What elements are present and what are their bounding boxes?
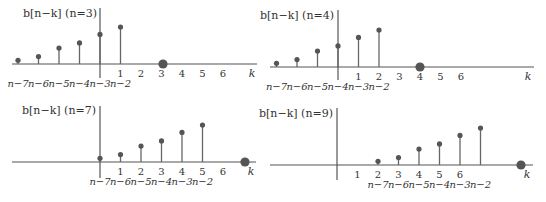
convolution-flip-shift-figure: b[n−k] (n=3)123456n−7n−6n−5n−4n−3n−2k b[…	[0, 0, 546, 202]
stem-dot	[376, 27, 381, 32]
k-tick-label: 2	[138, 68, 144, 79]
n-offset-label: n−2	[110, 78, 131, 89]
k-tick-label: 5	[437, 71, 443, 82]
stem-dot	[437, 141, 442, 146]
k-axis-label: k	[249, 67, 256, 80]
n-offset-label: n−6	[28, 78, 50, 89]
panel-title: b[n−k] (n=7)	[22, 104, 96, 117]
k-axis-label: k	[248, 165, 255, 178]
n-offset-label: n−3	[449, 179, 470, 190]
n-offset-label: n−4	[69, 78, 90, 89]
stem-dot	[36, 54, 41, 59]
stem-dot	[138, 143, 143, 148]
k-tick-label: 1	[354, 169, 360, 180]
k-tick-label: 4	[179, 68, 185, 79]
n-offset-label: n−6	[286, 81, 308, 92]
panel-n7: b[n−k] (n=7)123456n−7n−6n−5n−4n−3n−2k	[12, 104, 256, 187]
stem-dot	[77, 40, 82, 45]
n-offset-label: n−5	[130, 176, 151, 187]
panel-n9: b[n−k] (n=9)123456n−7n−6n−5n−4n−3n−2k	[259, 107, 533, 190]
stem-dot	[179, 130, 184, 135]
n-offset-label: n−4	[327, 81, 348, 92]
panel-title: b[n−k] (n=3)	[23, 7, 97, 20]
stem-dot	[294, 57, 299, 62]
panel-title: b[n−k] (n=4)	[260, 9, 334, 22]
n-offset-label: n−4	[151, 176, 172, 187]
stem-dot	[56, 45, 61, 50]
n-offset-label: n−7	[89, 176, 111, 187]
stem-dot	[478, 125, 483, 130]
k-tick-label: 4	[417, 71, 423, 82]
stem-dot	[416, 146, 421, 151]
stem-dot	[274, 61, 279, 66]
stem-dot	[396, 155, 401, 160]
stem-dot	[200, 122, 205, 127]
n-offset-label: n−3	[89, 78, 110, 89]
n-offset-label: n−6	[110, 176, 132, 187]
n-offset-label: n−7	[266, 81, 288, 92]
n-position-marker	[415, 62, 424, 71]
n-offset-label: n−5	[408, 179, 429, 190]
n-offset-label: n−7	[367, 179, 389, 190]
stem-dot	[457, 133, 462, 138]
k-tick-label: 3	[396, 71, 402, 82]
n-offset-label: n−2	[470, 179, 491, 190]
k-axis-label: k	[525, 70, 532, 83]
n-offset-label: n−3	[348, 81, 369, 92]
n-offset-label: n−2	[368, 81, 389, 92]
k-axis-label: k	[524, 168, 531, 181]
k-tick-label: 6	[458, 71, 464, 82]
n-offset-label: n−6	[388, 179, 410, 190]
n-offset-label: n−5	[48, 78, 69, 89]
panel-n3: b[n−k] (n=3)123456n−7n−6n−5n−4n−3n−2k	[7, 7, 257, 89]
panel-n4: b[n−k] (n=4)123456n−7n−6n−5n−4n−3n−2k	[260, 9, 534, 92]
k-tick-label: 6	[220, 68, 226, 79]
k-tick-label: 6	[220, 166, 226, 177]
panel-title: b[n−k] (n=9)	[259, 107, 333, 120]
stem-dot	[97, 156, 102, 161]
stem-dot	[315, 48, 320, 53]
stem-dot	[118, 152, 123, 157]
n-offset-label: n−2	[192, 176, 213, 187]
stem-dot	[15, 58, 20, 63]
n-offset-label: n−5	[307, 81, 328, 92]
n-offset-label: n−7	[7, 78, 29, 89]
k-tick-label: 3	[158, 68, 164, 79]
k-tick-label: 5	[199, 68, 205, 79]
stem-dot	[356, 35, 361, 40]
stem-dot	[335, 43, 340, 48]
n-offset-label: n−3	[171, 176, 192, 187]
n-offset-label: n−4	[429, 179, 450, 190]
stem-dot	[159, 138, 164, 143]
n-position-marker	[158, 59, 167, 68]
stem-dot	[118, 24, 123, 29]
stem-dot	[97, 32, 102, 37]
stem-dot	[375, 159, 380, 164]
